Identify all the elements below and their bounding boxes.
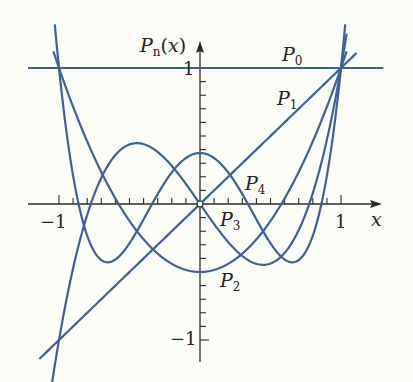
x-tick-label-neg-one: −1 <box>40 211 67 232</box>
y-tick-label-neg-one: −1 <box>170 328 197 349</box>
curve-P3 <box>52 34 347 382</box>
label-P1: P1 <box>276 87 297 112</box>
x-axis-label: x <box>371 208 382 230</box>
origin-marker <box>197 201 203 207</box>
label-P3: P3 <box>219 208 240 233</box>
y-tick-label-pos-one: 1 <box>183 58 194 79</box>
y-axis-label: Pn(x) <box>139 34 186 59</box>
legendre-plot: Pn(x) x −1 1 1 −1 P0 P1 P4 P3 P2 <box>0 0 413 382</box>
x-tick-label-pos-one: 1 <box>335 211 346 232</box>
label-P4: P4 <box>244 172 266 197</box>
label-P0: P0 <box>281 43 302 68</box>
label-P2: P2 <box>219 269 240 294</box>
curves <box>28 24 383 382</box>
